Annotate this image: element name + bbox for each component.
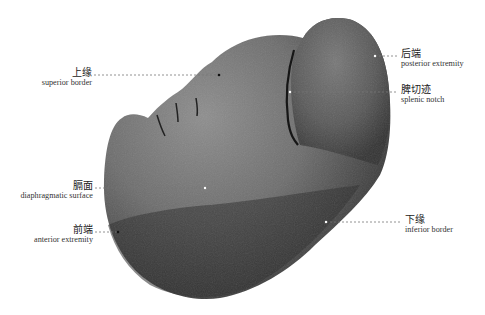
pointer-dot	[218, 74, 221, 77]
spleen-figure: 上缘 superior border 后端 posterior extremit…	[0, 0, 485, 315]
label-zh: 脾切迹	[401, 85, 444, 96]
label-en: splenic notch	[401, 96, 444, 105]
label-posterior-extremity: 后端 posterior extremity	[401, 49, 464, 68]
label-anterior-extremity: 前端 anterior extremity	[34, 225, 93, 244]
label-superior-border: 上缘 superior border	[42, 68, 92, 87]
label-zh: 下缘	[405, 215, 453, 226]
label-zh: 前端	[34, 225, 93, 236]
label-inferior-border: 下缘 inferior border	[405, 215, 453, 234]
pointer-dot	[117, 231, 120, 234]
label-en: anterior extremity	[34, 236, 93, 245]
label-en: posterior extremity	[401, 60, 464, 69]
pointer-dot	[325, 221, 327, 223]
pointer-dot	[289, 91, 291, 93]
label-zh: 上缘	[42, 68, 92, 79]
pointer-dot	[374, 55, 376, 57]
pointer-dot	[204, 187, 206, 189]
label-en: superior border	[42, 79, 92, 88]
surface-texture	[104, 18, 390, 299]
label-zh: 膈面	[20, 181, 93, 192]
label-zh: 后端	[401, 49, 464, 60]
label-en: diaphragmatic surface	[20, 192, 93, 201]
label-en: inferior border	[405, 226, 453, 235]
label-diaphragmatic-surface: 膈面 diaphragmatic surface	[20, 181, 93, 200]
label-splenic-notch: 脾切迹 splenic notch	[401, 85, 444, 104]
